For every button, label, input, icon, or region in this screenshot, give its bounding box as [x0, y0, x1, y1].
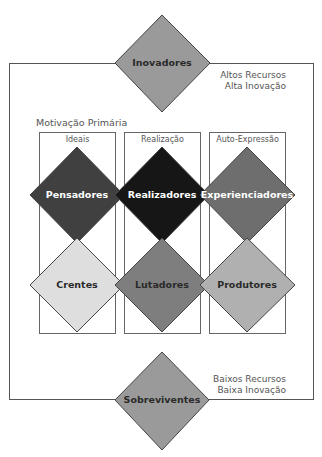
produtores-label: Produtores — [199, 279, 295, 291]
experienciadores-label: Experienciadores — [199, 189, 295, 201]
lutadores-label: Lutadores — [114, 279, 210, 291]
pensadores-label: Pensadores — [29, 189, 125, 201]
sobreviventes-label: Sobreviventes — [114, 394, 210, 406]
realizadores-label: Realizadores — [114, 189, 210, 201]
crentes-label: Crentes — [29, 279, 125, 291]
inovadores-label: Inovadores — [114, 57, 210, 69]
